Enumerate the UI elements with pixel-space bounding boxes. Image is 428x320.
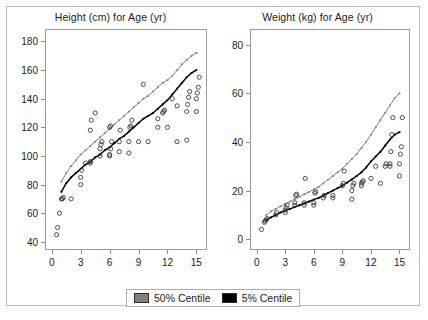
y-tick-mark bbox=[41, 70, 45, 71]
centile-line-node bbox=[389, 139, 391, 141]
scatter-point bbox=[185, 109, 189, 113]
scatter-point bbox=[93, 111, 97, 115]
y-tick-mark bbox=[41, 185, 45, 186]
y-tick-label: 140 bbox=[6, 93, 38, 104]
centile-line-node bbox=[337, 171, 339, 173]
y-tick-label: 120 bbox=[6, 122, 38, 133]
scatter-point bbox=[197, 75, 201, 79]
scatter-point bbox=[397, 174, 401, 178]
scatter-point bbox=[186, 102, 190, 106]
x-tick-label: 3 bbox=[282, 257, 288, 268]
legend-swatch-50-centile bbox=[134, 293, 149, 303]
y-tick-label: 60 bbox=[211, 88, 243, 99]
centile-line-node bbox=[114, 124, 116, 126]
centile-line-node bbox=[365, 167, 367, 169]
centile-line-node bbox=[142, 98, 144, 100]
centile-line-node bbox=[61, 181, 63, 183]
x-tick-mark bbox=[139, 250, 140, 254]
centile-line-node bbox=[384, 145, 386, 147]
centile-line-node bbox=[162, 82, 164, 84]
x-tick-label: 6 bbox=[107, 257, 113, 268]
centile-line-node bbox=[280, 212, 282, 214]
y-tick-mark bbox=[41, 127, 45, 128]
centile-line-node bbox=[346, 182, 348, 184]
centile-line-node bbox=[270, 216, 272, 218]
centile-line-node bbox=[128, 111, 130, 113]
centile-line-node bbox=[171, 94, 173, 96]
centile-line-node bbox=[70, 177, 72, 179]
centile-line-node bbox=[270, 210, 272, 212]
y-tick-label: 40 bbox=[211, 136, 243, 147]
centile-line-node bbox=[356, 153, 358, 155]
chart-legend: 50% Centile 5% Centile bbox=[126, 289, 300, 307]
scatter-point bbox=[170, 97, 174, 101]
x-tick-mark bbox=[257, 250, 258, 254]
centile-line-node bbox=[94, 156, 96, 158]
scatter-point bbox=[314, 190, 318, 194]
y-tick-label: 160 bbox=[6, 65, 38, 76]
scatter-point bbox=[141, 82, 145, 86]
centile-line-node bbox=[346, 163, 348, 165]
scatter-point bbox=[55, 233, 59, 237]
centile-line-node bbox=[265, 214, 267, 216]
centile-line-node bbox=[85, 149, 87, 151]
centile-line bbox=[61, 53, 196, 182]
scatter-point bbox=[156, 125, 160, 129]
scatter-point bbox=[397, 162, 401, 166]
scatter-point bbox=[88, 128, 92, 132]
y-tick-mark bbox=[246, 93, 250, 94]
centile-line-node bbox=[118, 119, 120, 121]
scatter-point bbox=[79, 175, 83, 179]
x-tick-label: 15 bbox=[394, 257, 405, 268]
x-tick-mark bbox=[196, 250, 197, 254]
centile-line-node bbox=[384, 112, 386, 114]
x-tick-label: 9 bbox=[340, 257, 346, 268]
centile-line-node bbox=[94, 141, 96, 143]
y-tick-mark bbox=[246, 142, 250, 143]
centile-line-node bbox=[370, 134, 372, 136]
centile-line-node bbox=[332, 175, 334, 177]
centile-line-node bbox=[308, 191, 310, 193]
y-tick-label: 60 bbox=[6, 208, 38, 219]
x-tick-label: 15 bbox=[191, 257, 202, 268]
centile-line-node bbox=[186, 76, 188, 78]
centile-line-node bbox=[318, 197, 320, 199]
centile-line-node bbox=[176, 88, 178, 90]
centile-line-node bbox=[327, 179, 329, 181]
x-tick-mark bbox=[52, 250, 53, 254]
scatter-point bbox=[369, 176, 373, 180]
centile-line-node bbox=[167, 99, 169, 101]
scatter-point bbox=[194, 109, 198, 113]
centile-line-node bbox=[322, 182, 324, 184]
scatter-point bbox=[127, 140, 131, 144]
centile-line-node bbox=[380, 119, 382, 121]
scatter-point bbox=[175, 140, 179, 144]
y-tick-mark bbox=[246, 239, 250, 240]
y-tick-label: 180 bbox=[6, 36, 38, 47]
centile-line-node bbox=[138, 102, 140, 104]
scatter-point bbox=[175, 104, 179, 108]
scatter-point bbox=[350, 189, 354, 193]
scatter-point bbox=[295, 192, 299, 196]
scatter-point bbox=[187, 95, 191, 99]
y-tick-label: 80 bbox=[211, 39, 243, 50]
x-tick-mark bbox=[399, 250, 400, 254]
centile-line-node bbox=[365, 141, 367, 143]
scatter-point bbox=[136, 140, 140, 144]
legend-entry-5-centile: 5% Centile bbox=[222, 292, 293, 304]
centile-line-node bbox=[289, 208, 291, 210]
centile-line-node bbox=[152, 91, 154, 93]
centile-line-node bbox=[167, 79, 169, 81]
scatter-point bbox=[130, 118, 134, 122]
x-tick-label: 6 bbox=[311, 257, 317, 268]
centile-line-node bbox=[318, 186, 320, 188]
scatter-point bbox=[196, 85, 200, 89]
centile-line-node bbox=[104, 132, 106, 134]
figure-frame: Height (cm) for Age (yr) 406080100120140… bbox=[6, 6, 420, 306]
centile-line-node bbox=[191, 72, 193, 74]
scatter-point bbox=[350, 197, 354, 201]
scatter-point bbox=[188, 89, 192, 93]
scatter-point bbox=[303, 176, 307, 180]
centile-line-node bbox=[337, 187, 339, 189]
y-tick-label: 40 bbox=[6, 236, 38, 247]
